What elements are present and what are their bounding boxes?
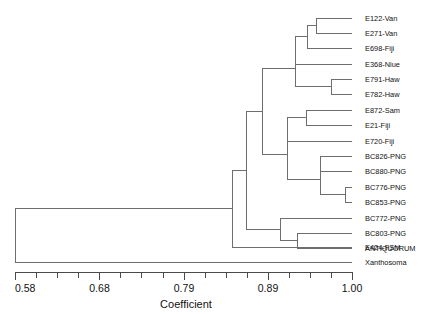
leaf-label-E791-Haw: E791-Haw — [365, 75, 400, 84]
leaf-label-BC853-PNG: BC853-PNG — [365, 198, 406, 207]
leaf-label-E368-Niue: E368-Niue — [365, 60, 400, 69]
leaf-label-E782-Haw: E782-Haw — [365, 90, 400, 99]
leaf-label-BC880-PNG: BC880-PNG — [365, 167, 406, 176]
leaf-label-Xanthosoma: Xanthosoma — [365, 258, 407, 267]
tick-label-1: 0.68 — [89, 282, 110, 294]
leaf-label-E424-FSM: E424-FSM — [365, 243, 400, 252]
leaf-label-E720-Fiji: E720-Fiji — [365, 137, 395, 146]
leaf-label-BC803-PNG: BC803-PNG — [365, 229, 406, 238]
dendrogram-plot: 0.58 0.68 0.79 0.89 1.00 Coefficient E12… — [0, 0, 430, 314]
leaf-label-E122-Van: E122-Van — [365, 14, 397, 23]
x-axis: 0.58 0.68 0.79 0.89 1.00 Coefficient — [15, 272, 362, 310]
leaf-label-BC776-PNG: BC776-PNG — [365, 183, 406, 192]
leaf-label-E872-Sam: E872-Sam — [365, 106, 400, 115]
tree-branches — [15, 18, 352, 262]
leaf-label-BC772-PNG: BC772-PNG — [365, 214, 406, 223]
tick-label-0: 0.58 — [15, 282, 36, 294]
leaf-labels: E122-Van E271-Van E698-Fiji E368-Niue E7… — [365, 14, 416, 267]
tick-label-4: 1.00 — [342, 282, 363, 294]
leaf-label-E271-Van: E271-Van — [365, 29, 397, 38]
leaf-label-E21-Fiji: E21-Fiji — [365, 121, 390, 130]
leaf-label-BC826-PNG: BC826-PNG — [365, 152, 406, 161]
tick-label-3: 0.89 — [258, 282, 279, 294]
leaf-label-E698-Fiji: E698-Fiji — [365, 44, 395, 53]
dendrogram-figure: 0.58 0.68 0.79 0.89 1.00 Coefficient E12… — [0, 0, 430, 314]
tick-label-2: 0.79 — [174, 282, 195, 294]
axis-title: Coefficient — [160, 298, 212, 310]
